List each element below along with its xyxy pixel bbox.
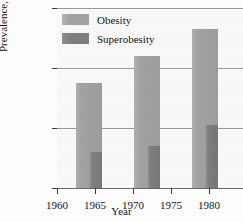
legend-label-obesity: Obesity [97,14,131,26]
x-axis-baseline [57,188,243,189]
x-tick-1960 [57,188,58,194]
legend-item-obesity: Obesity [62,12,154,27]
x-tick-1980 [209,188,210,194]
x-tick-1970 [133,188,134,194]
legend-item-superobesity: Superobesity [62,31,154,46]
bar-superobesity-1965 [90,152,102,188]
legend-label-superobesity: Superobesity [97,33,154,45]
y-tick-10 [52,128,57,129]
y-axis-label: Prevalence, percent [0,0,9,52]
x-tick-1975 [171,188,172,194]
gridline-30 [57,8,243,9]
legend-swatch-obesity-icon [62,14,89,25]
y-tick-30 [52,8,57,9]
legend: Obesity Superobesity [62,12,154,50]
bar-superobesity-1978 [206,125,218,188]
bar-chart-figure: 30 20 10 0 Prevalence, percent 1960 [0,0,243,222]
legend-swatch-superobesity-icon [62,33,89,44]
y-tick-20 [52,68,57,69]
bar-superobesity-1973 [148,146,160,188]
x-tick-1965 [95,188,96,194]
x-axis-label: Year [0,205,243,217]
